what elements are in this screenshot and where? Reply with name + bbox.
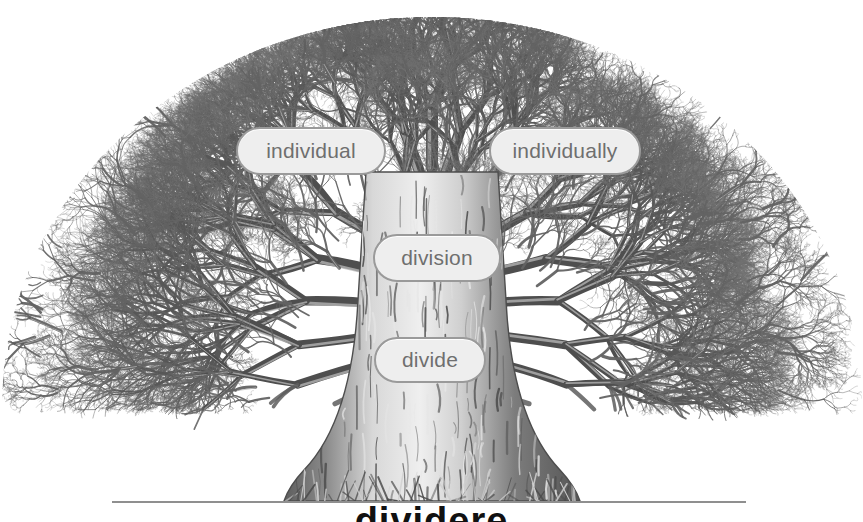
- word-label-text: division: [401, 246, 473, 270]
- word-label-text: individual: [266, 139, 356, 163]
- word-label-individual[interactable]: individual: [236, 127, 386, 175]
- word-label-divide[interactable]: divide: [374, 337, 486, 383]
- word-label-individually[interactable]: individually: [489, 127, 641, 175]
- word-label-text: divide: [402, 348, 458, 372]
- word-label-text: individually: [512, 139, 617, 163]
- root-word-text: dividere: [355, 504, 509, 522]
- word-label-division[interactable]: division: [373, 234, 501, 282]
- word-tree-figure: individual individually division divide …: [0, 0, 863, 522]
- root-word: dividere: [0, 504, 863, 522]
- ground-line: [112, 501, 746, 503]
